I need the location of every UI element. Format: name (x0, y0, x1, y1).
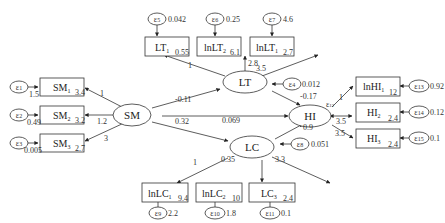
svg-text:2.4: 2.4 (283, 194, 293, 203)
svg-text:1: 1 (339, 93, 343, 102)
svg-text:9.4: 9.4 (178, 194, 188, 203)
svg-text:0.35: 0.35 (221, 155, 235, 164)
svg-text:1: 1 (188, 61, 192, 70)
ind-lt2: lnLT2 (204, 42, 226, 54)
svg-text:0.1: 0.1 (281, 209, 291, 218)
svg-text:3.5: 3.5 (335, 129, 345, 138)
latent-lc: LC (230, 136, 274, 158)
svg-text:ε8: ε8 (297, 140, 303, 149)
svg-text:3.2: 3.2 (75, 116, 85, 125)
ind-lc1: lnLC1 (148, 188, 172, 200)
latent-sm: SM (113, 104, 151, 126)
svg-text:3.5: 3.5 (336, 117, 346, 126)
latent-lt: LT (223, 71, 267, 93)
svg-text:ε3: ε3 (16, 139, 22, 148)
svg-text:0.92: 0.92 (430, 82, 444, 91)
svg-text:2.7: 2.7 (283, 48, 293, 57)
svg-text:ε1: ε1 (16, 83, 22, 92)
ind-lc2: lnLC2 (202, 188, 226, 200)
svg-text:ε15: ε15 (414, 134, 423, 143)
svg-text:0.051: 0.051 (311, 140, 329, 149)
ind-hi1: lnHI1 (363, 81, 384, 93)
svg-text:2.4: 2.4 (388, 140, 398, 149)
sem-diagram: SM LT LC HI SM1 SM2 SM3 LT1 lnLT2 lnLT1 … (0, 0, 445, 223)
svg-text:2.4: 2.4 (388, 114, 398, 123)
svg-text:ε7: ε7 (269, 15, 275, 24)
svg-text:1.8: 1.8 (226, 209, 236, 218)
svg-text:3.3: 3.3 (275, 155, 285, 164)
svg-text:0.069: 0.069 (222, 116, 240, 125)
svg-text:ε10: ε10 (210, 209, 219, 218)
svg-text:ε2: ε2 (16, 111, 22, 120)
svg-text:0.32: 0.32 (175, 117, 189, 126)
svg-text:ε11: ε11 (265, 209, 274, 218)
svg-text:2.2: 2.2 (168, 209, 178, 218)
svg-text:6.1: 6.1 (230, 48, 240, 57)
svg-text:-0.17: -0.17 (300, 92, 317, 101)
svg-text:1.2: 1.2 (97, 117, 107, 126)
svg-text:1.5: 1.5 (29, 90, 39, 99)
svg-text:2.7: 2.7 (75, 144, 85, 153)
svg-text:ε4: ε4 (289, 80, 295, 89)
svg-text:ε5: ε5 (154, 15, 160, 24)
ind-lt3: lnLT1 (256, 42, 278, 54)
svg-text:LC: LC (245, 141, 259, 153)
svg-text:-0.11: -0.11 (175, 95, 191, 104)
svg-text:0.005: 0.005 (24, 146, 42, 155)
svg-text:SM: SM (124, 109, 140, 121)
svg-text:0.55: 0.55 (175, 48, 189, 57)
svg-text:12: 12 (389, 88, 397, 97)
svg-text:0.12: 0.12 (430, 108, 444, 117)
svg-text:3.5: 3.5 (256, 64, 266, 73)
svg-text:3: 3 (104, 134, 108, 143)
svg-text:10: 10 (232, 194, 240, 203)
svg-text:HI: HI (304, 110, 316, 122)
svg-text:0.49: 0.49 (27, 118, 41, 127)
svg-text:ε6: ε6 (212, 15, 218, 24)
svg-text:0.1: 0.1 (430, 134, 440, 143)
svg-text:0.9: 0.9 (303, 123, 313, 132)
svg-text:0.25: 0.25 (226, 15, 240, 24)
svg-text:ε12: ε12 (326, 100, 335, 109)
svg-text:LT: LT (239, 76, 252, 88)
svg-text:1: 1 (100, 89, 104, 98)
svg-text:ε14: ε14 (414, 108, 423, 117)
svg-text:ε13: ε13 (414, 82, 423, 91)
svg-text:ε9: ε9 (155, 209, 161, 218)
svg-text:1: 1 (193, 158, 197, 167)
svg-text:0.012: 0.012 (302, 80, 320, 89)
svg-text:3.4: 3.4 (75, 88, 85, 97)
svg-text:4.6: 4.6 (283, 15, 293, 24)
svg-text:0.042: 0.042 (168, 15, 186, 24)
